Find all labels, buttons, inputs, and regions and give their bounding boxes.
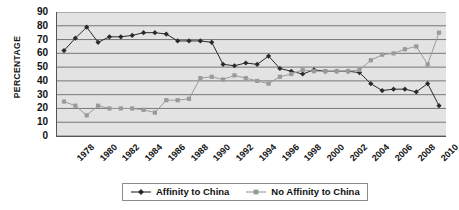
legend-label: No Affinity to China — [271, 186, 359, 197]
x-axis-tick-label: 1978 — [75, 142, 96, 163]
x-axis-tick-label: 1990 — [211, 142, 232, 163]
x-axis-tick-label: 2000 — [325, 142, 346, 163]
x-axis-tick-label: 2010 — [438, 142, 459, 163]
x-axis-tick-label: 2004 — [370, 142, 391, 163]
legend-label: Affinity to China — [156, 186, 229, 197]
x-axis-tick-label: 1984 — [143, 142, 164, 163]
x-axis-tick-label: 1982 — [120, 142, 141, 163]
x-axis-tick-label: 1980 — [98, 142, 119, 163]
x-axis-tick-label: 1996 — [279, 142, 300, 163]
legend-item-1[interactable]: Affinity to China — [130, 186, 229, 197]
x-axis-tick-label: 1998 — [302, 142, 323, 163]
x-axis-tick-label: 2002 — [348, 142, 369, 163]
legend-item-2[interactable]: No Affinity to China — [245, 186, 359, 197]
x-axis-tick-label: 2006 — [393, 142, 414, 163]
diamond-marker-icon — [130, 187, 152, 197]
x-axis-tick-label: 1988 — [188, 142, 209, 163]
x-axis-tick-label: 1986 — [166, 142, 187, 163]
square-marker-icon — [245, 187, 267, 197]
x-axis-tick-label: 1992 — [234, 142, 255, 163]
x-axis-tick-label: 2008 — [416, 142, 437, 163]
chart-container: PERCENTAGE 9080706050403020100 197819801… — [0, 0, 459, 210]
x-axis-tick-label: 1994 — [257, 142, 278, 163]
chart-legend: Affinity to ChinaNo Affinity to China — [122, 183, 368, 201]
x-axis-tick-labels: 1978198019821984198619881990199219941996… — [0, 0, 459, 210]
